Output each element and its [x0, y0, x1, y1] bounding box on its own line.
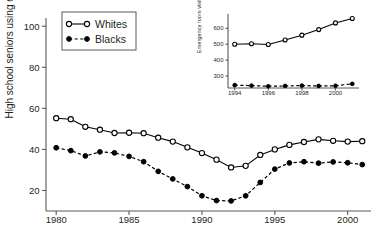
main-data-point-whites	[141, 131, 146, 136]
inset-data-point-whites	[266, 43, 270, 47]
main-data-point-blacks	[141, 159, 146, 164]
main-series-line-blacks	[56, 148, 362, 201]
inset-y-tick-label: 400	[213, 57, 224, 63]
inset-y-tick-label: 500	[213, 41, 224, 47]
main-y-tick-label: 80	[29, 62, 40, 73]
inset-data-point-blacks	[283, 84, 287, 88]
main-data-point-blacks	[331, 160, 336, 165]
inset-data-point-whites	[283, 38, 287, 42]
main-data-point-blacks	[243, 193, 248, 198]
main-data-point-blacks	[345, 160, 350, 165]
main-data-point-blacks	[98, 149, 103, 154]
inset-backdrop	[194, 4, 369, 108]
main-data-point-whites	[54, 116, 59, 121]
main-data-point-whites	[83, 124, 88, 129]
main-data-point-blacks	[302, 159, 307, 164]
main-data-point-whites	[316, 137, 321, 142]
legend-marker-whites	[66, 21, 71, 26]
inset-x-tick-label: 1998	[295, 90, 309, 96]
main-y-tick-label: 60	[29, 103, 40, 114]
inset-data-point-whites	[250, 42, 254, 46]
main-data-point-whites	[170, 139, 175, 144]
main-data-point-blacks	[287, 161, 292, 166]
main-x-tick-label: 2000	[337, 214, 358, 225]
inset-data-point-whites	[233, 42, 237, 46]
legend-label-whites: Whites	[95, 18, 127, 30]
inset-data-point-blacks	[350, 82, 354, 86]
main-x-tick-label: 1990	[191, 214, 212, 225]
inset-data-point-blacks	[300, 84, 304, 88]
main-data-point-blacks	[185, 184, 190, 189]
legend-label-blacks: Blacks	[95, 33, 126, 45]
inset-y-axis-title: Emergency room visits (1000s)	[196, 0, 202, 53]
inset-x-tick-label: 2000	[329, 90, 343, 96]
main-data-point-whites	[126, 130, 131, 135]
inset-data-point-blacks	[250, 84, 254, 88]
legend-marker-whites	[84, 21, 89, 26]
main-data-point-blacks	[200, 193, 205, 198]
inset-x-tick-label: 1994	[228, 90, 242, 96]
main-data-point-whites	[258, 152, 263, 157]
main-data-point-whites	[112, 130, 117, 135]
chart-legend: WhitesBlacks	[62, 12, 136, 50]
main-data-point-whites	[199, 151, 204, 156]
inset-y-tick-label: 300	[213, 73, 224, 79]
main-data-point-blacks	[316, 161, 321, 166]
inset-data-point-whites	[317, 28, 321, 32]
main-y-tick-label: 40	[29, 144, 40, 155]
inset-data-point-whites	[350, 16, 354, 20]
main-data-point-whites	[243, 163, 248, 168]
main-data-point-whites	[287, 142, 292, 147]
main-data-point-whites	[345, 139, 350, 144]
inset-data-point-blacks	[334, 84, 338, 88]
main-data-point-blacks	[112, 150, 117, 155]
legend-marker-blacks	[67, 37, 72, 42]
inset-x-tick-label: 1996	[262, 90, 276, 96]
main-x-tick-label: 1980	[46, 214, 67, 225]
main-y-tick-label: 20	[29, 185, 40, 196]
main-data-point-blacks	[127, 154, 132, 159]
inset-data-point-whites	[333, 21, 337, 25]
main-data-point-blacks	[68, 148, 73, 153]
main-data-point-whites	[185, 145, 190, 150]
main-data-point-whites	[156, 135, 161, 140]
chart-canvas: 2040608010019801985199019952000High scho…	[0, 0, 381, 247]
main-data-point-whites	[272, 147, 277, 152]
main-data-point-whites	[68, 117, 73, 122]
main-data-point-blacks	[272, 167, 277, 172]
main-data-point-blacks	[229, 199, 234, 204]
main-x-tick-label: 1985	[119, 214, 140, 225]
main-data-point-blacks	[360, 162, 365, 167]
inset-y-tick-label: 600	[213, 25, 224, 31]
main-data-point-whites	[214, 157, 219, 162]
inset-data-point-blacks	[266, 84, 270, 88]
legend-marker-blacks	[85, 37, 90, 42]
main-data-point-blacks	[54, 145, 59, 150]
main-y-axis-title: High school seniors using drugs (%)	[4, 0, 15, 119]
main-data-point-whites	[360, 139, 365, 144]
inset-data-point-whites	[300, 33, 304, 37]
main-data-point-blacks	[214, 198, 219, 203]
main-data-point-whites	[228, 165, 233, 170]
main-x-tick-label: 1995	[264, 214, 285, 225]
main-data-point-whites	[97, 127, 102, 132]
inset-data-point-blacks	[233, 83, 237, 87]
main-data-point-blacks	[156, 169, 161, 174]
main-series-line-whites	[56, 118, 362, 167]
main-data-point-whites	[331, 138, 336, 143]
main-data-point-blacks	[258, 180, 263, 185]
main-y-tick-label: 100	[24, 21, 40, 32]
inset-data-point-blacks	[317, 84, 321, 88]
main-data-point-blacks	[83, 154, 88, 159]
main-data-point-blacks	[170, 177, 175, 182]
main-data-point-whites	[301, 139, 306, 144]
chart-figure: 2040608010019801985199019952000High scho…	[0, 0, 381, 247]
